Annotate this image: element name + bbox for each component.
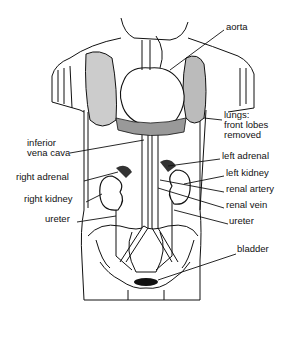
right-lung	[86, 52, 117, 126]
pelvis-crest	[88, 225, 198, 236]
left-kidney	[169, 170, 190, 204]
label-ureter-right: ureter	[45, 214, 70, 225]
right-kidney	[100, 176, 123, 210]
label-renal-vein: renal vein	[226, 200, 267, 211]
label-renal-artery: renal artery	[226, 184, 274, 195]
heart	[120, 68, 184, 127]
label-ureter-left: ureter	[229, 216, 254, 227]
label-right-adrenal: right adrenal	[16, 172, 69, 183]
label-bladder: bladder	[237, 244, 269, 255]
bladder-base	[134, 278, 158, 286]
anatomy-diagram: aorta lungs: front lobes removed inferio…	[0, 0, 294, 344]
label-inferior-vena-cava-line2: vena cava	[27, 148, 70, 159]
right-adrenal	[116, 166, 132, 178]
label-aorta: aorta	[226, 22, 248, 33]
left-lung	[183, 56, 206, 123]
label-lungs-line3: removed	[224, 130, 261, 141]
great-vessels	[142, 120, 158, 228]
label-left-adrenal: left adrenal	[222, 151, 269, 162]
neck-outline	[121, 18, 188, 40]
label-left-kidney: left kidney	[226, 168, 269, 179]
label-right-kidney: right kidney	[24, 194, 73, 205]
